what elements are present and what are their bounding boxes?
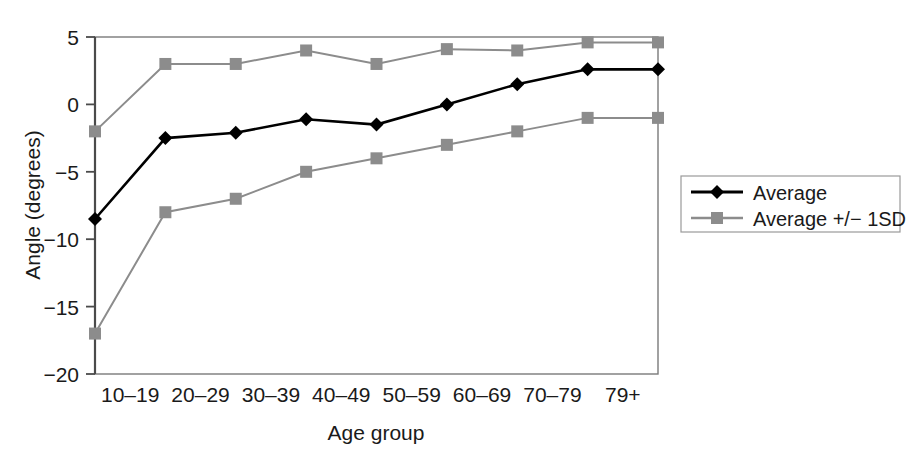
y-tick-label: −10 bbox=[43, 228, 79, 251]
data-point-marker bbox=[300, 166, 312, 178]
data-point-marker bbox=[159, 206, 171, 218]
data-point-marker bbox=[582, 36, 594, 48]
x-tick-label: 30–39 bbox=[242, 383, 300, 406]
legend-label: Average bbox=[753, 182, 827, 204]
data-point-marker bbox=[300, 44, 312, 56]
legend-label: Average +/− 1SD bbox=[753, 208, 906, 230]
x-tick-label: 10–19 bbox=[101, 383, 159, 406]
data-point-marker bbox=[582, 112, 594, 124]
data-point-marker bbox=[159, 58, 171, 70]
data-point-marker bbox=[371, 152, 383, 164]
y-tick-label: −5 bbox=[55, 161, 79, 184]
data-point-marker bbox=[230, 58, 242, 70]
y-axis-title: Angle (degrees) bbox=[21, 130, 44, 279]
x-axis-title: Age group bbox=[328, 421, 425, 444]
x-tick-label: 40–49 bbox=[312, 383, 370, 406]
x-tick-label: 20–29 bbox=[171, 383, 229, 406]
x-tick-label: 70–79 bbox=[523, 383, 581, 406]
data-point-marker bbox=[511, 44, 523, 56]
data-point-marker bbox=[511, 125, 523, 137]
chart-legend: AverageAverage +/− 1SD bbox=[681, 176, 906, 232]
x-tick-label: 79+ bbox=[605, 383, 641, 406]
chart-canvas: 50−5−10−15−20 10–1920–2930–3940–4950–596… bbox=[0, 0, 922, 464]
data-point-marker bbox=[89, 125, 101, 137]
data-point-marker bbox=[230, 193, 242, 205]
x-tick-label: 50–59 bbox=[382, 383, 440, 406]
y-tick-label: −20 bbox=[43, 363, 79, 386]
x-tick-label: 60–69 bbox=[453, 383, 511, 406]
data-point-marker bbox=[441, 139, 453, 151]
data-point-marker bbox=[652, 112, 664, 124]
data-point-marker bbox=[711, 212, 723, 224]
y-tick-label: 0 bbox=[67, 93, 79, 116]
data-point-marker bbox=[441, 43, 453, 55]
data-point-marker bbox=[89, 328, 101, 340]
data-point-marker bbox=[652, 36, 664, 48]
data-point-marker bbox=[371, 58, 383, 70]
line-chart: 50−5−10−15−20 10–1920–2930–3940–4950–596… bbox=[0, 0, 922, 464]
y-tick-label: −15 bbox=[43, 296, 79, 319]
y-tick-label: 5 bbox=[67, 26, 79, 49]
